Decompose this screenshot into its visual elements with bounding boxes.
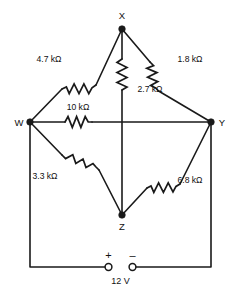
node-label-w: W <box>15 117 24 128</box>
node-label-y: Y <box>219 117 226 128</box>
wire-z-to-r68 <box>122 188 147 215</box>
resistor-6k8-zigzag <box>147 183 180 193</box>
resistor-2k7-zigzag <box>117 59 127 90</box>
branch-w-z <box>30 122 122 215</box>
wire-r33-to-z <box>99 170 122 215</box>
branch-w-y <box>30 117 211 128</box>
resistor-label-4k7: 4.7 kΩ <box>36 54 62 64</box>
node-label-x: X <box>119 10 126 21</box>
source-voltage-label: 12 V <box>111 276 130 286</box>
wire-x-to-r18 <box>122 29 150 62</box>
node-dot-w <box>27 119 34 126</box>
resistor-label-2k7: 2.7 kΩ <box>137 84 163 94</box>
negative-terminal-icon[interactable] <box>129 264 136 271</box>
resistor-label-6k8: 6.8 kΩ <box>177 175 203 185</box>
wire-w-to-r47 <box>30 89 62 122</box>
node-dot-z <box>119 212 126 219</box>
branch-x-y <box>122 29 211 122</box>
resistor-label-10k: 10 kΩ <box>67 102 90 112</box>
resistor-label-3k3: 3.3 kΩ <box>32 171 58 181</box>
wire-w-to-r33 <box>30 122 62 155</box>
node-label-z: Z <box>119 221 125 232</box>
negative-sign-label: – <box>129 249 136 261</box>
wire-r18-to-y <box>159 91 211 122</box>
supply-loop-wires <box>30 122 211 267</box>
resistor-10k-zigzag <box>65 117 92 128</box>
positive-terminal-icon[interactable] <box>105 264 112 271</box>
wire-r47-to-x <box>96 29 122 85</box>
positive-sign-label: + <box>105 249 111 261</box>
circuit-canvas: + – 12 V X W Y Z 4.7 kΩ 1.8 kΩ 2.7 kΩ 10… <box>0 0 234 298</box>
node-dot-x <box>119 26 126 33</box>
wire-w-to-positive-terminal <box>30 122 105 267</box>
voltage-source: + – 12 V <box>105 249 136 286</box>
branch-z-y <box>122 122 211 215</box>
circuit-diagram: + – 12 V X W Y Z 4.7 kΩ 1.8 kΩ 2.7 kΩ 10… <box>0 0 234 298</box>
node-labels: X W Y Z <box>15 10 226 232</box>
resistor-3k3-zigzag <box>62 155 99 170</box>
resistor-label-1k8: 1.8 kΩ <box>177 54 203 64</box>
node-dot-y <box>208 119 215 126</box>
resistor-4k7-zigzag <box>62 84 96 94</box>
